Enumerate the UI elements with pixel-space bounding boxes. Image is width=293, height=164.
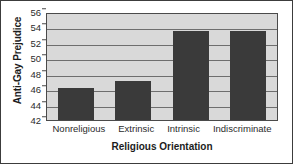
x-axis-title: Religious Orientation [46, 141, 278, 152]
x-axis-tick-label: Extrinsic [118, 123, 154, 134]
y-axis-tick-label: 44 [19, 101, 41, 111]
bar [173, 31, 209, 120]
bar-series [47, 14, 277, 120]
bar-chart-figure: Anti-Gay Prejudice 4244464850525456 Nonr… [0, 0, 293, 164]
y-axis-tick-label: 46 [19, 85, 41, 95]
y-axis-tick-mark [42, 8, 46, 9]
bar [230, 31, 266, 120]
x-axis-tick-label: Indiscriminate [213, 123, 272, 134]
x-axis-tick-label: Intrinsic [167, 123, 200, 134]
x-axis-tick-labels: NonreligiousExtrinsicIntrinsicIndiscrimi… [46, 123, 278, 134]
bar [58, 88, 94, 120]
y-axis-tick-label: 52 [19, 39, 41, 49]
plot-area [46, 13, 278, 121]
y-axis-tick-labels: 4244464850525456 [19, 13, 41, 121]
y-axis-tick-label: 50 [19, 55, 41, 65]
y-axis-tick-label: 54 [19, 24, 41, 34]
x-axis-tick-label: Nonreligious [52, 123, 105, 134]
y-axis-tick-label: 56 [19, 8, 41, 18]
y-axis-tick-label: 48 [19, 70, 41, 80]
y-axis-tick-label: 42 [19, 116, 41, 126]
bar [115, 81, 151, 120]
